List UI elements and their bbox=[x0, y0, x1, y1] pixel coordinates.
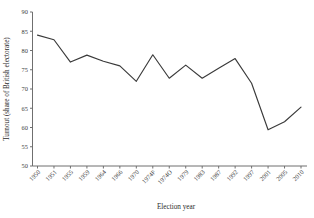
y-tick-label: 90 bbox=[22, 8, 28, 15]
y-tick-label: 55 bbox=[22, 143, 28, 150]
y-tick-label: 85 bbox=[22, 28, 28, 35]
y-tick-label: 80 bbox=[22, 47, 28, 54]
y-tick-label: 50 bbox=[22, 162, 28, 169]
chart-figure: 505560657075808590 195019511955195919641… bbox=[0, 0, 314, 218]
y-tick-label: 75 bbox=[22, 66, 28, 73]
y-tick-label: 60 bbox=[22, 124, 28, 131]
y-tick-label: 70 bbox=[22, 85, 28, 92]
y-tick-label: 65 bbox=[22, 105, 28, 112]
x-axis-title: Election year bbox=[157, 203, 196, 211]
y-axis-title: Turnout (share of British electorate) bbox=[3, 37, 11, 141]
chart-background bbox=[0, 0, 314, 218]
turnout-line-chart: 505560657075808590 195019511955195919641… bbox=[0, 0, 314, 218]
